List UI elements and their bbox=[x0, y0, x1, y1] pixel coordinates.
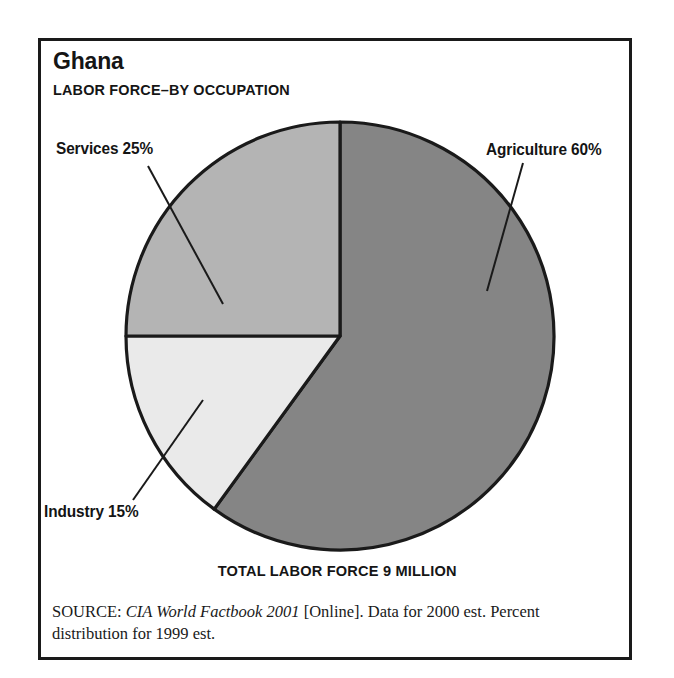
total-labor-force-text: TOTAL LABOR FORCE 9 MILLION bbox=[217, 562, 456, 580]
slice-label-services: Services 25% bbox=[56, 140, 153, 158]
slice-label-industry: Industry 15% bbox=[44, 503, 138, 521]
source-prefix: SOURCE: bbox=[52, 602, 122, 621]
source-divider bbox=[41, 592, 629, 593]
slice-label-agriculture: Agriculture 60% bbox=[486, 141, 602, 159]
pie-slice-services bbox=[126, 122, 340, 336]
source-publication: CIA World Factbook 2001 bbox=[126, 602, 300, 621]
total-labor-force-caption: TOTAL LABOR FORCE 9 MILLION bbox=[0, 562, 674, 580]
source-note: SOURCE: CIA World Factbook 2001 [Online]… bbox=[52, 601, 618, 645]
figure-page: Ghana LABOR FORCE–BY OCCUPATION Services… bbox=[0, 0, 674, 678]
